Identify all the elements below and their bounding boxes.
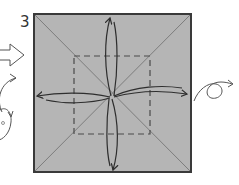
rotate-center-dot-icon	[2, 122, 5, 125]
step-number: 3	[20, 13, 30, 31]
turn-over-loop-icon	[194, 82, 232, 101]
turn-over-arrow-icon	[0, 78, 16, 112]
push-arrow-icon	[0, 44, 24, 66]
origami-diagram: 3	[0, 0, 239, 185]
turn-over-arrowhead-icon	[10, 74, 16, 82]
